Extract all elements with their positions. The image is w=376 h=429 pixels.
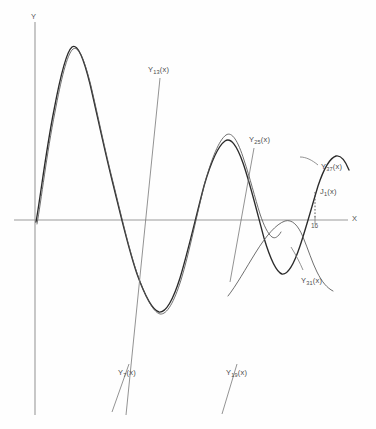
curve-label-y37-sub: 37 bbox=[326, 166, 333, 172]
x-axis-label: X bbox=[352, 215, 357, 223]
curve-label-y25: Y25(x) bbox=[249, 136, 270, 144]
curve-label-y25-suffix: (x) bbox=[261, 135, 270, 144]
curve-label-y31-sub: 31 bbox=[306, 280, 313, 286]
bessel-function-plot-figure: Y X 16 Y7(x) Y13(x) Y19(x) Y25(x) Y31(x)… bbox=[0, 0, 376, 429]
curve-label-y7-suffix: (x) bbox=[127, 368, 136, 377]
curve-label-y37-suffix: (x) bbox=[333, 162, 342, 171]
curve-label-y19: Y19(x) bbox=[226, 369, 247, 377]
curve-label-y31-suffix: (x) bbox=[313, 276, 322, 285]
curve-j1-heavy bbox=[36, 46, 349, 312]
curve-label-j1-suffix: (x) bbox=[327, 187, 336, 196]
curve-label-y19-suffix: (x) bbox=[238, 368, 247, 377]
curve-label-y19-sub: 19 bbox=[231, 372, 238, 378]
curve-label-y13-sub: 13 bbox=[153, 69, 160, 75]
leader-line-y13 bbox=[126, 78, 160, 415]
leader-line-y37 bbox=[300, 157, 318, 165]
curve-label-j1-sub: 1 bbox=[324, 191, 327, 197]
curve-label-y7: Y7(x) bbox=[118, 369, 136, 377]
plot-canvas bbox=[0, 0, 376, 429]
curve-label-j1: J1(x) bbox=[320, 188, 337, 196]
leader-line-y31 bbox=[291, 247, 303, 270]
curve-label-y37: Y37(x) bbox=[321, 163, 342, 171]
x-tick-label-16: 16 bbox=[311, 223, 318, 230]
y-axis-label: Y bbox=[31, 13, 36, 21]
curve-label-y31: Y31(x) bbox=[301, 277, 322, 285]
curve-label-y7-sub: 7 bbox=[123, 372, 126, 378]
curve-label-y13-suffix: (x) bbox=[160, 65, 169, 74]
curve-label-y25-sub: 25 bbox=[254, 139, 261, 145]
curve-label-y13: Y13(x) bbox=[148, 66, 169, 74]
